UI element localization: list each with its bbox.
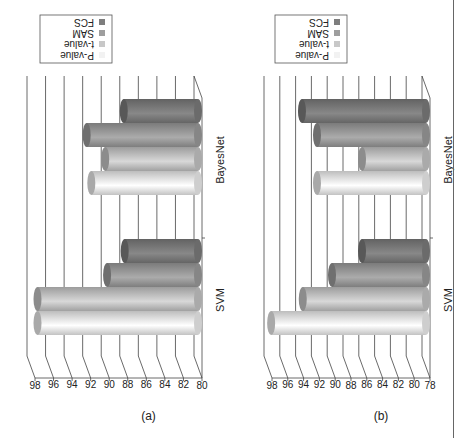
svg-text:FCS: FCS <box>74 17 94 28</box>
bar-sam-svm <box>103 263 202 287</box>
bar-fcs-bayesnet <box>298 99 430 123</box>
category-group-svm <box>33 239 202 335</box>
bar-sam-bayesnet <box>83 123 202 147</box>
svg-text:82: 82 <box>393 380 405 391</box>
legend-swatch <box>334 52 340 58</box>
svg-text:84: 84 <box>377 380 389 391</box>
svg-text:94: 94 <box>67 380 79 391</box>
svg-text:96: 96 <box>282 380 294 391</box>
bar-tvalue-svm <box>299 287 430 311</box>
legend-swatch <box>99 52 105 58</box>
svg-text:FCS: FCS <box>309 17 329 28</box>
svg-text:78: 78 <box>424 380 436 391</box>
svg-text:86: 86 <box>141 380 153 391</box>
panel-label: (b) <box>374 409 389 423</box>
svg-text:80: 80 <box>196 380 208 391</box>
legend-swatch <box>99 41 105 47</box>
svg-text:86: 86 <box>361 380 373 391</box>
category-group-svm <box>267 239 430 335</box>
legend-swatch <box>334 19 340 25</box>
svg-text:94: 94 <box>298 380 310 391</box>
bar-tvalue-bayesnet <box>101 147 202 171</box>
bar-tvalue-bayesnet <box>358 147 430 171</box>
category-label-svm: SVM <box>214 288 226 312</box>
svg-text:98: 98 <box>29 380 41 391</box>
bar-sam-bayesnet <box>313 123 430 147</box>
legend-swatch <box>99 30 105 36</box>
svg-text:82: 82 <box>178 380 190 391</box>
svg-text:92: 92 <box>85 380 97 391</box>
svg-text:SAM: SAM <box>307 28 329 39</box>
svg-text:92: 92 <box>314 380 326 391</box>
legend-swatch <box>334 41 340 47</box>
chart-panel-a: 80828486889092949698(a)SVMBayesNetP-valu… <box>0 0 237 438</box>
bar-fcs-svm <box>358 239 430 263</box>
category-group-bayesnet <box>83 99 202 195</box>
svg-text:90: 90 <box>104 380 116 391</box>
legend: P-valuet-valueSAMFCS <box>40 15 112 63</box>
category-group-bayesnet <box>298 99 430 195</box>
svg-text:88: 88 <box>345 380 357 391</box>
legend-swatch <box>334 30 340 36</box>
svg-text:P-value: P-value <box>295 50 329 61</box>
legend-swatch <box>99 19 105 25</box>
legend: P-valuet-valueSAMFCS <box>275 15 347 63</box>
svg-text:84: 84 <box>159 380 171 391</box>
panel-label: (a) <box>141 409 156 423</box>
y-axis-tick-labels: 7880828486889092949698 <box>266 378 436 391</box>
svg-text:SAM: SAM <box>72 28 94 39</box>
chart-panel-b: 7880828486889092949698(b)SVMBayesNetP-va… <box>237 0 474 438</box>
rotated-figure: 80828486889092949698(a)SVMBayesNetP-valu… <box>0 0 474 438</box>
svg-text:80: 80 <box>409 380 421 391</box>
page-edge-rule <box>453 0 454 438</box>
bar-pvalue-svm <box>33 311 202 335</box>
svg-text:t-value: t-value <box>64 39 94 50</box>
svg-text:96: 96 <box>48 380 60 391</box>
bar-pvalue-bayesnet <box>313 171 430 195</box>
bar-sam-svm <box>328 263 430 287</box>
bar-fcs-bayesnet <box>120 99 202 123</box>
bar-fcs-svm <box>121 239 202 263</box>
svg-text:90: 90 <box>330 380 342 391</box>
svg-text:88: 88 <box>122 380 134 391</box>
bar-pvalue-bayesnet <box>87 171 202 195</box>
category-label-bayesnet: BayesNet <box>214 136 226 184</box>
svg-text:P-value: P-value <box>60 50 94 61</box>
bar-pvalue-svm <box>267 311 430 335</box>
svg-text:t-value: t-value <box>299 39 329 50</box>
svg-text:98: 98 <box>266 380 278 391</box>
bar-tvalue-svm <box>33 287 202 311</box>
y-axis-tick-labels: 80828486889092949698 <box>29 378 208 391</box>
